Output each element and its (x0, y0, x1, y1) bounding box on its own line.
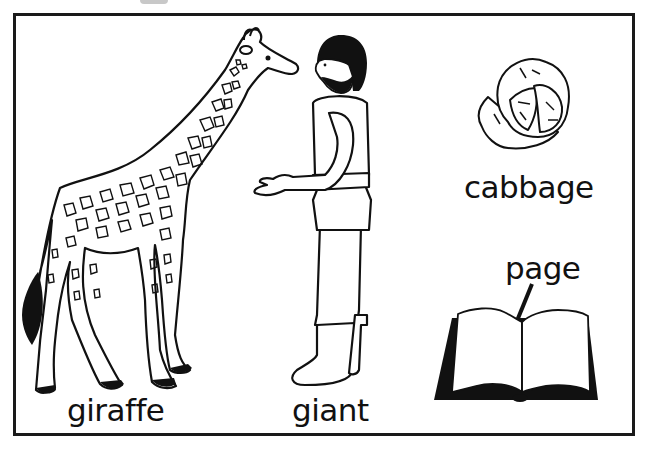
cabbage-illustration (468, 52, 578, 152)
top-edge-artifact (140, 0, 168, 4)
book-illustration (432, 272, 612, 402)
label-giraffe: giraffe (67, 395, 164, 426)
giant-illustration (245, 25, 385, 395)
label-cabbage: cabbage (464, 172, 594, 203)
label-page: page (505, 253, 580, 284)
label-giant: giant (292, 395, 369, 426)
